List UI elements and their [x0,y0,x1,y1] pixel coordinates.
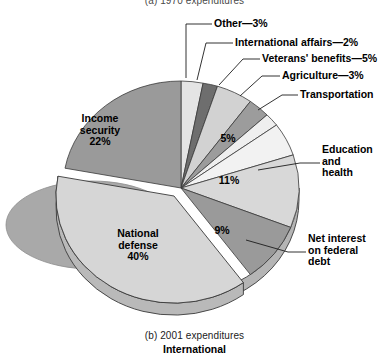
leader-line-veterans-benefits [219,59,260,85]
callout-veterans-benefits: Veterans' benefits—5% [262,53,377,65]
callout-transportation: Transportation [300,89,374,101]
leader-line-transportation [258,95,298,110]
label-income-security-value: 22% [60,136,140,148]
label-national-defense: National defense 40% [96,228,180,263]
label-income-security: Income security 22% [60,113,140,148]
label-commerce-housing-value: 5% [215,132,241,144]
leader-line-agriculture [240,76,280,96]
label-education-health-value: 11% [214,174,244,186]
label-national-defense-line1: National [96,228,180,240]
callout-net-interest-line1: Net interest [308,233,380,245]
label-income-security-line1: Income [60,113,140,125]
figure-caption-subtitle: International [0,343,389,355]
callout-international-affairs: International affairs—2% [235,37,358,49]
callout-other: Other—3% [214,18,268,30]
figure-caption-bottom: (b) 2001 expenditures [0,330,389,341]
leader-line-international-affairs [197,43,233,80]
callout-net-interest-on-federal-debt: Net interest on federal debt [308,233,380,268]
callout-agriculture: Agriculture—3% [282,70,364,82]
label-net-interest-value: 9% [209,224,235,236]
callout-net-interest-line3: debt [308,256,380,268]
callout-education-line1: Education [322,144,384,156]
label-national-defense-value: 40% [96,251,180,263]
figure-container: (a) 1970 expenditures [0,0,389,359]
callout-education-line3: health [322,167,384,179]
callout-education-and-health: Education and health [322,144,384,179]
